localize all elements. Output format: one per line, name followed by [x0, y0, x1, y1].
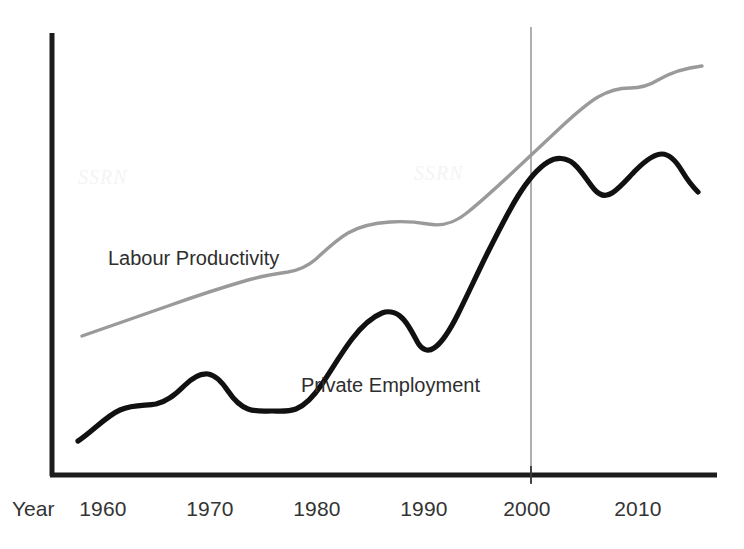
x-tick-label-1990: 1990	[400, 497, 448, 521]
x-tick-label-1960: 1960	[79, 497, 127, 521]
series-label-labour-productivity: Labour Productivity	[108, 247, 279, 270]
chart-container: SSRN SSRN Labour Productivity Private Em…	[0, 0, 744, 549]
series-line-labour-productivity	[82, 66, 702, 336]
x-tick-label-2000: 2000	[503, 497, 551, 521]
chart-plot-area	[0, 0, 744, 549]
x-axis-caption: Year	[12, 497, 54, 521]
watermark-left: SSRN	[78, 166, 128, 189]
x-tick-label-1980: 1980	[293, 497, 341, 521]
watermark-right: SSRN	[414, 162, 464, 185]
x-tick-label-1970: 1970	[186, 497, 234, 521]
x-tick-label-2010: 2010	[614, 497, 662, 521]
series-line-private-employment	[78, 154, 698, 441]
series-label-private-employment: Private Employment	[301, 374, 480, 397]
